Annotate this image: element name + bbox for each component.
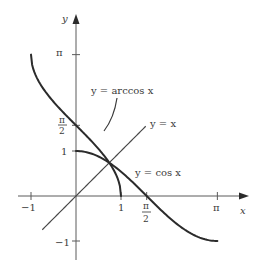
y-tick-label-pi: π [56,47,63,58]
arccos-leader-line [104,98,117,131]
x-axis-arrow-icon [239,193,249,200]
y-tick-label-pi-half-num: π [59,115,65,125]
y-tick-label-pi-half-den: 2 [59,126,65,136]
function-plot: x y π π 2 1 −1 −1 1 π 2 π y = arccos x y… [0,0,261,269]
y-tick-label-one: 1 [61,146,67,157]
identity-line [42,126,146,230]
identity-label: y = x [149,118,176,129]
cos-label: y = cos x [134,167,181,178]
x-tick-label-pi-half-den: 2 [143,214,149,224]
y-axis-label: y [61,13,68,24]
x-tick-label-pi-half-num: π [143,201,149,211]
y-tick-label-neg-one: −1 [55,237,70,248]
y-axis-arrow-icon [73,14,80,24]
x-tick-label-neg-one: −1 [21,202,36,213]
axes [18,14,249,260]
x-tick-label-pi: π [213,202,220,213]
x-tick-label-one: 1 [118,202,124,213]
x-axis-label: x [240,205,246,216]
arccos-label: y = arccos x [90,85,154,96]
